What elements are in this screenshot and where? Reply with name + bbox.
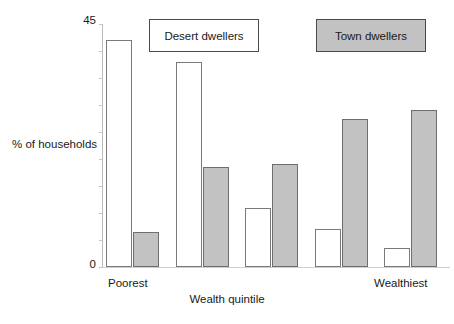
x-axis-line — [102, 267, 450, 268]
bar-group — [176, 24, 229, 267]
x-tick-label-poorest: Poorest — [108, 277, 148, 289]
y-axis-min-label: 0 — [62, 258, 96, 270]
bar — [203, 167, 229, 267]
bar — [411, 110, 437, 267]
plot-area — [102, 24, 450, 267]
bar — [315, 229, 341, 267]
bar — [272, 164, 298, 267]
bar — [133, 232, 159, 267]
bar — [176, 62, 202, 267]
legend-item-desert-dwellers: Desert dwellers — [149, 19, 259, 52]
bar-group — [106, 24, 159, 267]
legend-label-desert-dwellers: Desert dwellers — [164, 30, 243, 42]
x-axis-title: Wealth quintile — [0, 293, 454, 305]
x-tick-label-wealthiest: Wealthiest — [374, 277, 427, 289]
bar — [342, 119, 368, 268]
bar-group — [245, 24, 298, 267]
bar — [245, 208, 271, 267]
legend-label-town-dwellers: Town dwellers — [335, 30, 407, 42]
bar-group — [315, 24, 368, 267]
bar-group — [384, 24, 437, 267]
bar — [106, 40, 132, 267]
bar-chart: 45 0 % of households Poorest Wealthiest … — [0, 0, 454, 324]
legend-item-town-dwellers: Town dwellers — [316, 19, 426, 52]
bar — [384, 248, 410, 267]
y-axis-max-label: 45 — [62, 14, 96, 26]
y-axis-title: % of households — [12, 138, 97, 150]
